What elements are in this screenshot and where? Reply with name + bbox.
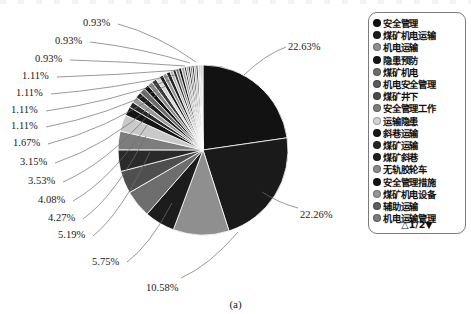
pie-percentage-label: 22.26% xyxy=(300,210,332,221)
pie-percentage-label: 3.15% xyxy=(20,157,47,168)
pie-percentage-label: 0.93% xyxy=(83,18,110,29)
pie-percentage-label: 1.11% xyxy=(11,121,38,132)
legend-panel[interactable]: 安全管理煤矿机电运输机电运输隐患预防煤矿机电机电安全管理煤矿井下安全管理工作运输… xyxy=(368,12,466,234)
legend-swatch-icon xyxy=(373,190,381,198)
pie-percentage-label: 1.11% xyxy=(16,88,43,99)
pie-percentage-label: 0.93% xyxy=(35,54,62,65)
pie-percentage-label: 1.67% xyxy=(13,138,40,149)
legend-swatch-icon xyxy=(373,104,381,112)
legend-list: 安全管理煤矿机电运输机电运输隐患预防煤矿机电机电安全管理煤矿井下安全管理工作运输… xyxy=(373,17,462,224)
pie-percentage-label: 5.19% xyxy=(58,230,85,241)
figure-root: 0.93%0.93%0.93%1.11%1.11%1.11%1.11%1.67%… xyxy=(0,0,471,314)
legend-swatch-icon xyxy=(373,31,381,39)
pie-percentage-label: 22.63% xyxy=(288,42,320,53)
pie-percentage-label: 3.53% xyxy=(28,176,55,187)
pie-percentage-label: 4.27% xyxy=(48,213,75,224)
legend-swatch-icon xyxy=(373,202,381,210)
pie-percentage-label: 5.75% xyxy=(92,257,119,268)
pie-percentage-label: 4.08% xyxy=(38,195,65,206)
figure-caption: (a) xyxy=(0,298,471,310)
legend-pager[interactable]: △1/2▼ xyxy=(369,219,465,230)
legend-swatch-icon xyxy=(373,92,381,100)
legend-swatch-icon xyxy=(373,80,381,88)
legend-swatch-icon xyxy=(373,43,381,51)
pie-chart-area: 0.93%0.93%0.93%1.11%1.11%1.11%1.11%1.67%… xyxy=(0,0,360,296)
pie-percentage-label: 0.93% xyxy=(55,36,82,47)
legend-swatch-icon xyxy=(373,56,381,64)
pie-percentage-label: 1.11% xyxy=(22,71,49,82)
legend-swatch-icon xyxy=(373,19,381,27)
legend-swatch-icon xyxy=(373,141,381,149)
legend-swatch-icon xyxy=(373,129,381,137)
legend-swatch-icon xyxy=(373,117,381,125)
legend-swatch-icon xyxy=(373,178,381,186)
pie-slice[interactable] xyxy=(203,65,287,150)
legend-swatch-icon xyxy=(373,165,381,173)
legend-swatch-icon xyxy=(373,153,381,161)
pie-percentage-label: 10.58% xyxy=(146,283,178,294)
legend-swatch-icon xyxy=(373,68,381,76)
pie-percentage-label: 1.11% xyxy=(11,105,38,116)
